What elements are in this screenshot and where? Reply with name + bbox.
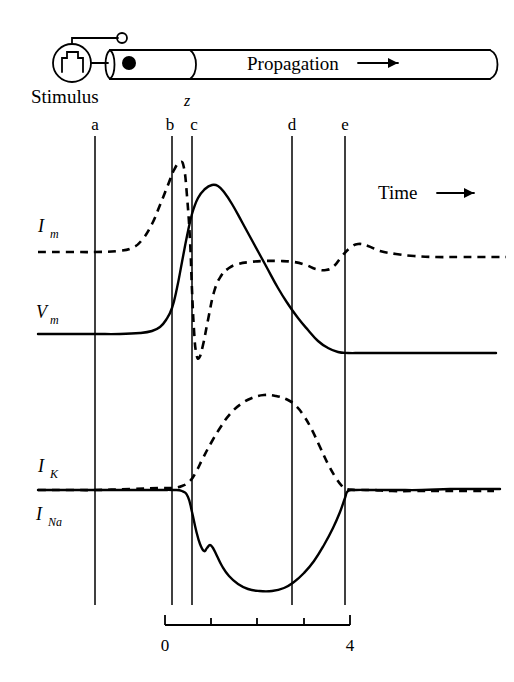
time-axis-ruler: 0 4 [161,615,355,655]
axis-ticks [165,615,350,625]
marker-label-d: d [288,115,297,134]
trace-labels: I m V m I K I Na [35,216,62,529]
trace-label-vm: V m [36,302,59,327]
trace-label-vm-base: V [36,302,49,322]
time-axis-label-group: Time [378,182,474,203]
filled-dot-electrode-icon [122,56,136,70]
position-label-z: z [183,92,191,109]
trace-ina [38,489,500,592]
figure-canvas: Propagation Stimulus z a b c d e Tim [0,0,514,682]
time-label: Time [378,182,417,203]
reference-wire [72,38,118,44]
pulse-generator-icon [53,44,91,82]
trace-label-im-base: I [37,216,45,236]
trace-label-ik-base: I [37,456,45,476]
action-potential-figure: Propagation Stimulus z a b c d e Tim [0,0,514,682]
trace-vm [38,185,496,353]
traces [38,162,506,592]
axon-left-cap-front [110,50,115,79]
trace-label-ina-base: I [35,504,43,524]
trace-label-ina: I Na [35,504,62,529]
axon-diagram: Propagation Stimulus z [31,33,498,109]
trace-label-im: I m [37,216,59,241]
marker-label-e: e [341,115,349,134]
time-arrow-icon [437,188,474,198]
trace-ik [38,395,494,491]
pulse-waveform-icon [62,52,83,72]
trace-label-vm-sub: m [50,313,59,327]
trace-im [38,162,506,359]
trace-label-ina-sub: Na [47,515,62,529]
axon-left-cap-back [106,50,111,79]
marker-label-c: c [190,115,198,134]
marker-label-b: b [166,115,175,134]
trace-label-ik: I K [37,456,59,481]
stimulus-label: Stimulus [31,86,99,107]
axon-z-section-arc [190,50,196,79]
axon-right-cap [490,50,498,79]
axis-tick-label-start: 0 [161,636,170,655]
propagation-arrow-icon [358,58,398,68]
propagation-label: Propagation [247,53,339,74]
axis-tick-label-end: 4 [346,636,355,655]
trace-label-ik-sub: K [49,467,59,481]
trace-label-im-sub: m [50,227,59,241]
marker-label-a: a [91,115,99,134]
